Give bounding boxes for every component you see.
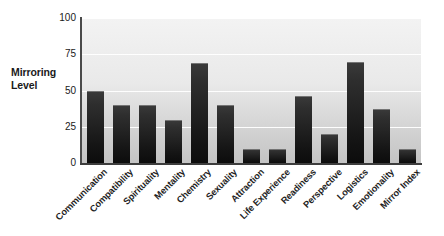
bar <box>347 62 364 164</box>
y-axis-tick-labels: 0255075100 <box>0 18 76 163</box>
bar <box>87 91 104 164</box>
y-axis-line <box>80 17 82 164</box>
y-tick-label: 25 <box>2 121 76 132</box>
bar <box>269 149 286 164</box>
x-axis-tick-labels: CommunicationCompatibilitySpiritualityMe… <box>0 165 444 236</box>
bar <box>243 149 260 164</box>
bar <box>217 105 234 163</box>
plot-area <box>82 18 421 163</box>
bar <box>295 96 312 163</box>
y-tick-label: 50 <box>2 85 76 96</box>
bar <box>113 105 130 163</box>
gridline <box>82 91 421 92</box>
bar <box>165 120 182 164</box>
gridline <box>82 127 421 128</box>
y-tick-label: 75 <box>2 48 76 59</box>
bar <box>321 134 338 163</box>
bar-chart: Mirroring Level 0255075100 Communication… <box>0 0 444 236</box>
bar <box>399 149 416 164</box>
bar <box>191 63 208 163</box>
y-tick-label: 100 <box>2 12 76 23</box>
bar <box>139 105 156 163</box>
gridline <box>82 54 421 55</box>
bar <box>373 109 390 163</box>
gridline <box>82 18 421 19</box>
